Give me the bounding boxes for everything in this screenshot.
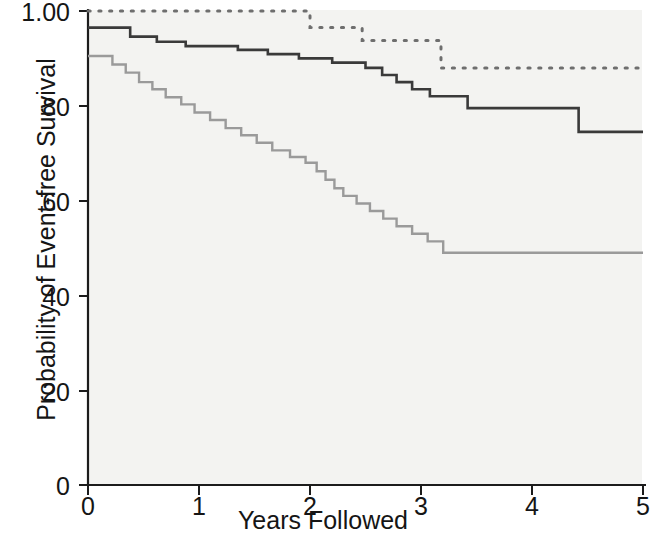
y-axis-ticks bbox=[79, 11, 88, 485]
x-axis-title: Years Followed bbox=[0, 506, 646, 534]
plot-area-background bbox=[88, 10, 642, 485]
y-axis-title: Probability of Event-free Survival bbox=[32, 40, 61, 440]
y-tick-label-0: 0 bbox=[0, 472, 70, 501]
y-tick-label-100: 1.00 bbox=[0, 0, 70, 27]
x-axis-ticks bbox=[88, 485, 643, 495]
